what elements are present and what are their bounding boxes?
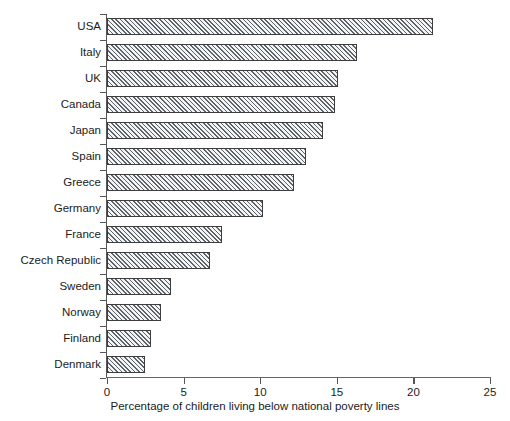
y-axis-label: Canada: [1, 98, 101, 111]
bar: [107, 304, 161, 321]
plot-area: [107, 14, 490, 378]
y-tick-mark: [100, 40, 106, 41]
x-tick-mark: [184, 378, 185, 384]
y-axis-label: Norway: [1, 306, 101, 319]
y-axis-label: Sweden: [1, 280, 101, 293]
y-axis-label: Spain: [1, 150, 101, 163]
y-axis-label: Japan: [1, 124, 101, 137]
bar-row: [107, 248, 490, 274]
y-axis-label: Finland: [1, 332, 101, 345]
y-tick-mark: [100, 352, 106, 353]
y-tick-mark: [100, 274, 106, 275]
bar-row: [107, 300, 490, 326]
bar-row: [107, 66, 490, 92]
x-tick-mark: [107, 378, 108, 384]
x-tick-label: 0: [87, 386, 127, 398]
bar-row: [107, 40, 490, 66]
x-tick-label: 10: [240, 386, 280, 398]
y-tick-mark: [100, 92, 106, 93]
bar-row: [107, 196, 490, 222]
x-tick-label: 5: [164, 386, 204, 398]
y-tick-mark: [100, 196, 106, 197]
y-axis-label: Italy: [1, 46, 101, 59]
bar-row: [107, 118, 490, 144]
bar: [107, 70, 338, 87]
bar: [107, 44, 357, 61]
bar-row: [107, 14, 490, 40]
bar: [107, 252, 210, 269]
bar: [107, 96, 335, 113]
y-axis-label: USA: [1, 20, 101, 33]
x-tick-label: 20: [393, 386, 433, 398]
y-tick-mark: [100, 66, 106, 67]
bar-row: [107, 222, 490, 248]
bar-row: [107, 144, 490, 170]
bar-row: [107, 352, 490, 378]
bar: [107, 278, 171, 295]
y-axis-category-labels: USAItalyUKCanadaJapanSpainGreeceGermanyF…: [0, 14, 101, 378]
bar-chart: USAItalyUKCanadaJapanSpainGreeceGermanyF…: [0, 0, 510, 421]
y-tick-mark: [100, 300, 106, 301]
x-tick-mark: [413, 378, 414, 384]
y-tick-mark: [100, 14, 106, 15]
x-tick-mark: [337, 378, 338, 384]
y-tick-mark: [100, 118, 106, 119]
bar: [107, 200, 263, 217]
bar: [107, 122, 323, 139]
y-tick-mark: [100, 248, 106, 249]
bar: [107, 330, 151, 347]
y-axis-label: France: [1, 228, 101, 241]
x-tick-mark: [490, 378, 491, 384]
y-tick-mark: [100, 222, 106, 223]
y-axis-label: Czech Republic: [1, 254, 101, 267]
y-axis-label: Denmark: [1, 358, 101, 371]
bar: [107, 174, 294, 191]
y-axis-label: UK: [1, 72, 101, 85]
y-tick-mark: [100, 170, 106, 171]
x-tick-label: 25: [470, 386, 510, 398]
x-tick-mark: [260, 378, 261, 384]
bar: [107, 356, 145, 373]
bar-row: [107, 326, 490, 352]
bar-row: [107, 92, 490, 118]
y-axis-label: Greece: [1, 176, 101, 189]
bar: [107, 226, 222, 243]
x-tick-label: 15: [317, 386, 357, 398]
y-tick-mark: [100, 378, 106, 379]
bar: [107, 148, 306, 165]
bar-row: [107, 170, 490, 196]
y-tick-mark: [100, 326, 106, 327]
y-axis-label: Germany: [1, 202, 101, 215]
x-axis-title: Percentage of children living below nati…: [0, 400, 510, 412]
bar: [107, 18, 433, 35]
bar-row: [107, 274, 490, 300]
y-tick-mark: [100, 144, 106, 145]
